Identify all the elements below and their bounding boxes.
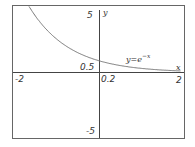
- y-tick-5: 5: [87, 10, 93, 20]
- y-tick-0.5: 0.5: [80, 62, 95, 72]
- x-tick-0.2: 0.2: [101, 74, 116, 84]
- x-axis-label: x: [176, 63, 181, 72]
- x-tick-neg2: -2: [15, 74, 24, 84]
- chart: 5 y 0.5 0.2 -2 2 x -5 y=e−x: [0, 0, 195, 147]
- y-tick-neg5: -5: [86, 126, 95, 136]
- x-tick-2: 2: [176, 75, 182, 85]
- y-axis-label: y: [102, 8, 108, 17]
